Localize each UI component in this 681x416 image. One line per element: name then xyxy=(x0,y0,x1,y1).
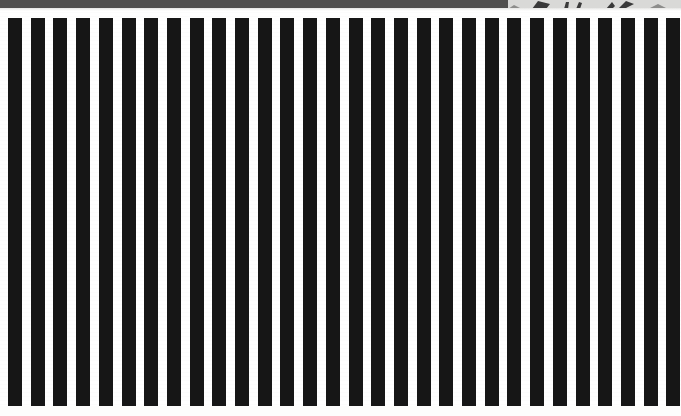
stripe-bar xyxy=(439,18,453,406)
stripe-bar xyxy=(144,18,158,406)
stripe-bar xyxy=(485,18,499,406)
stripe-bar xyxy=(303,18,317,406)
stripe-bar xyxy=(53,18,67,406)
page-bottom-margin xyxy=(0,406,681,416)
vertical-stripe-pattern xyxy=(0,18,681,406)
stripe-bar xyxy=(621,18,635,406)
stripe-bar xyxy=(99,18,113,406)
stripe-bar xyxy=(371,18,385,406)
stripe-bar xyxy=(8,18,22,406)
stripe-bar xyxy=(190,18,204,406)
stripe-bar xyxy=(258,18,272,406)
stripe-bar xyxy=(394,18,408,406)
stripe-bar xyxy=(31,18,45,406)
stripe-bar xyxy=(76,18,90,406)
stripe-bar xyxy=(212,18,226,406)
stripe-bar xyxy=(235,18,249,406)
stripe-bar xyxy=(417,18,431,406)
stripe-bar xyxy=(280,18,294,406)
page-edge-band-light-segment xyxy=(508,0,681,8)
stripe-bar xyxy=(553,18,567,406)
stripe-bar xyxy=(462,18,476,406)
stripe-bar xyxy=(122,18,136,406)
page-edge-shadow xyxy=(0,8,681,11)
stripe-bar xyxy=(644,18,658,406)
zoomed-document-view xyxy=(0,0,681,416)
stripe-bar xyxy=(576,18,590,406)
stripe-bar xyxy=(598,18,612,406)
stripe-bar xyxy=(507,18,521,406)
stripe-bar xyxy=(666,18,680,406)
stripe-bar xyxy=(167,18,181,406)
stripe-bar xyxy=(530,18,544,406)
stripe-bar xyxy=(349,18,363,406)
stripe-bar xyxy=(326,18,340,406)
